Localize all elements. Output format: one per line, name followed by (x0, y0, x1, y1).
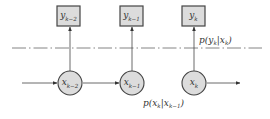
observation-nodes: yk−2yk−1yk (57, 6, 205, 26)
emission-probability-label: p(yk|xk) (199, 35, 232, 46)
state-node-x_k: xk (182, 71, 206, 95)
emission-arrows (70, 27, 194, 71)
observation-node-y_km1: yk−1 (120, 6, 143, 26)
state-nodes: xk−2xk−1xk (58, 71, 206, 95)
state-node-x_km1: xk−1 (120, 71, 144, 95)
transition-probability-label: p(xk|xk−1) (143, 98, 185, 109)
observation-node-y_km2: yk−2 (57, 6, 80, 26)
observation-node-y_k: yk (182, 6, 205, 26)
hmm-diagram: yk−2yk−1yk xk−2xk−1xk p(yk|xk) p(xk|xk−1… (0, 0, 270, 119)
state-node-x_km2: xk−2 (58, 71, 82, 95)
